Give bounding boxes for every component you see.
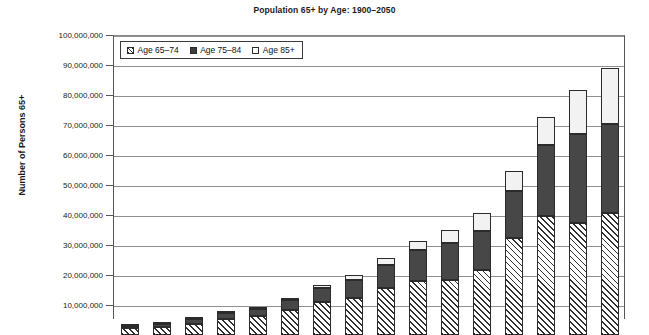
bar-segment-age-75-84 bbox=[249, 309, 268, 316]
y-tick-label: 90,000,000 bbox=[63, 61, 103, 70]
bar-segment-age-65-74 bbox=[281, 310, 300, 335]
bar-segment-age-75-84 bbox=[153, 324, 172, 327]
bar-segment-age-65-74 bbox=[601, 213, 620, 335]
bar-segment-age-75-84 bbox=[345, 280, 364, 298]
y-tick-label: 100,000,000 bbox=[59, 31, 104, 40]
bar-group bbox=[114, 36, 624, 319]
y-axis-ticks: 100,000,00090,000,00080,000,00070,000,00… bbox=[0, 35, 113, 319]
y-tick-mark bbox=[106, 125, 113, 126]
outline-swatch-icon bbox=[252, 47, 259, 54]
legend-label-age-65-74: Age 65–74 bbox=[138, 45, 179, 55]
bar-segment-age-65-74 bbox=[345, 298, 364, 335]
hatched-swatch-icon bbox=[127, 47, 134, 54]
chart-title: Population 65+ by Age: 1900–2050 bbox=[0, 5, 649, 15]
legend-item-age-75-84: Age 75–84 bbox=[190, 45, 242, 55]
bar-segment-age-75-84 bbox=[377, 265, 396, 288]
bar-1940 bbox=[249, 308, 268, 335]
bar-1900 bbox=[121, 326, 140, 335]
bar-segment-age-65-74 bbox=[409, 281, 428, 335]
bar-segment-age-65-74 bbox=[121, 328, 140, 335]
bar-segment-age-85-plus bbox=[505, 171, 524, 191]
legend-item-age-65-74: Age 65–74 bbox=[127, 45, 179, 55]
y-tick-label: 10,000,000 bbox=[63, 301, 103, 310]
bar-segment-age-85-plus bbox=[601, 68, 620, 125]
bar-segment-age-65-74 bbox=[505, 238, 524, 335]
bar-2050 bbox=[601, 68, 620, 335]
bar-segment-age-75-84 bbox=[185, 319, 204, 323]
bar-segment-age-75-84 bbox=[441, 243, 460, 280]
bar-segment-age-75-84 bbox=[473, 231, 492, 270]
bar-segment-age-85-plus bbox=[409, 241, 428, 250]
y-tick-label: 20,000,000 bbox=[63, 271, 103, 280]
plot-area bbox=[113, 35, 625, 319]
bar-segment-age-65-74 bbox=[377, 288, 396, 335]
y-tick-label: 80,000,000 bbox=[63, 91, 103, 100]
bar-segment-age-75-84 bbox=[601, 124, 620, 212]
bar-segment-age-75-84 bbox=[537, 145, 556, 217]
bar-segment-age-85-plus bbox=[569, 90, 588, 134]
bar-segment-age-85-plus bbox=[249, 307, 268, 309]
legend-label-age-75-84: Age 75–84 bbox=[200, 45, 241, 55]
bar-2010 bbox=[473, 213, 492, 335]
bar-segment-age-75-84 bbox=[313, 288, 332, 302]
bar-segment-age-65-74 bbox=[217, 319, 236, 335]
y-tick-mark bbox=[106, 155, 113, 156]
y-tick-label: 50,000,000 bbox=[63, 181, 103, 190]
y-tick-mark bbox=[106, 245, 113, 246]
y-tick-label: 60,000,000 bbox=[63, 151, 103, 160]
bar-2030 bbox=[537, 117, 556, 335]
chart-legend: Age 65–74 Age 75–84 Age 85+ bbox=[120, 41, 303, 59]
bar-segment-age-65-74 bbox=[569, 223, 588, 335]
y-tick-mark bbox=[106, 65, 113, 66]
bar-1990 bbox=[409, 241, 428, 335]
bar-segment-age-65-74 bbox=[537, 216, 556, 335]
bar-segment-age-65-74 bbox=[153, 327, 172, 335]
bar-segment-age-65-74 bbox=[249, 316, 268, 335]
y-tick-label: 30,000,000 bbox=[63, 241, 103, 250]
bar-segment-age-75-84 bbox=[409, 250, 428, 280]
bar-1930 bbox=[217, 312, 236, 335]
bar-2020 bbox=[505, 171, 524, 335]
bar-segment-age-85-plus bbox=[345, 275, 364, 280]
bar-segment-age-85-plus bbox=[121, 324, 140, 326]
bar-1970 bbox=[345, 275, 364, 335]
bar-segment-age-85-plus bbox=[217, 311, 236, 313]
y-tick-mark bbox=[106, 275, 113, 276]
bar-1910 bbox=[153, 323, 172, 335]
bar-segment-age-75-84 bbox=[121, 326, 140, 328]
bar-1980 bbox=[377, 258, 396, 335]
bar-segment-age-75-84 bbox=[217, 313, 236, 319]
solid-dark-swatch-icon bbox=[190, 47, 197, 54]
bar-segment-age-85-plus bbox=[313, 285, 332, 288]
bar-segment-age-75-84 bbox=[281, 300, 300, 310]
bar-segment-age-75-84 bbox=[569, 134, 588, 223]
bar-segment-age-65-74 bbox=[313, 302, 332, 335]
legend-label-age-85-plus: Age 85+ bbox=[263, 45, 295, 55]
y-tick-label: 70,000,000 bbox=[63, 121, 103, 130]
bar-1950 bbox=[281, 298, 300, 335]
bar-segment-age-65-74 bbox=[185, 324, 204, 335]
bar-segment-age-65-74 bbox=[441, 280, 460, 335]
bar-segment-age-85-plus bbox=[473, 213, 492, 230]
y-tick-mark bbox=[106, 185, 113, 186]
bar-2040 bbox=[569, 90, 588, 335]
y-tick-mark bbox=[106, 215, 113, 216]
bar-segment-age-85-plus bbox=[537, 117, 556, 144]
bar-2000 bbox=[441, 230, 460, 335]
legend-item-age-85-plus: Age 85+ bbox=[252, 45, 294, 55]
y-tick-mark bbox=[106, 35, 113, 36]
y-tick-mark bbox=[106, 95, 113, 96]
bar-segment-age-65-74 bbox=[473, 270, 492, 335]
bar-segment-age-85-plus bbox=[185, 317, 204, 319]
bar-1960 bbox=[313, 285, 332, 335]
bar-segment-age-85-plus bbox=[441, 230, 460, 243]
bar-segment-age-85-plus bbox=[377, 258, 396, 265]
bar-segment-age-75-84 bbox=[505, 191, 524, 238]
y-tick-label: 40,000,000 bbox=[63, 211, 103, 220]
y-tick-mark bbox=[106, 305, 113, 306]
bar-1920 bbox=[185, 319, 204, 335]
bar-segment-age-85-plus bbox=[281, 298, 300, 300]
bar-segment-age-85-plus bbox=[153, 322, 172, 324]
